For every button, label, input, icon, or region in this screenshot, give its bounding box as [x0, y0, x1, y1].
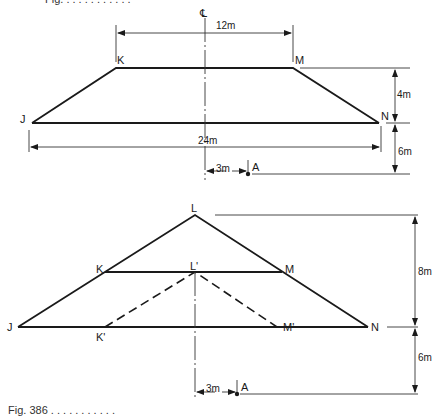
label-n-upper: N	[381, 110, 389, 122]
label-a-lower: A	[241, 381, 249, 393]
label-k-upper: K	[117, 54, 125, 66]
upper-trapezoid-outline	[32, 68, 379, 123]
label-m-lower: M	[285, 263, 294, 275]
label-12m: 12m	[216, 20, 235, 31]
label-j-lower: J	[7, 321, 13, 333]
figure-caption-cut: Fig. 386 . . . . . . . . . . .	[8, 404, 115, 416]
lower-figure: L L' K M J N K' M' 8m 6m 3m A	[7, 202, 432, 398]
label-3m-lower: 3m	[206, 383, 220, 394]
label-k-prime: K'	[96, 331, 105, 343]
label-j-upper: J	[20, 113, 26, 125]
point-a-marker-lower	[235, 392, 239, 396]
label-l-prime: L'	[190, 260, 198, 272]
label-24m: 24m	[198, 135, 217, 146]
lower-dashed-triangle	[105, 272, 277, 327]
label-6m-lower: 6m	[418, 352, 432, 363]
label-m-prime: M'	[283, 321, 294, 333]
label-n-lower: N	[371, 321, 379, 333]
centerline-symbol: ℄	[199, 7, 207, 19]
point-a-marker-upper	[246, 172, 250, 176]
label-3m-upper: 3m	[216, 163, 230, 174]
label-4m: 4m	[397, 89, 411, 100]
label-k-lower: K	[96, 263, 104, 275]
label-8m: 8m	[418, 266, 432, 277]
label-6m-upper: 6m	[398, 146, 412, 157]
label-a-upper: A	[252, 161, 260, 173]
label-m-upper: M	[295, 54, 304, 66]
upper-figure: ℄ 12m K M J N 4m 24m 6m 3m A	[20, 7, 412, 180]
label-l: L	[191, 202, 197, 214]
